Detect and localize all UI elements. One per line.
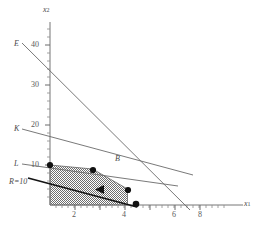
y-tick-label-20: 20	[31, 121, 39, 129]
vertex-point	[125, 187, 131, 193]
vertex-point	[47, 162, 53, 168]
line-label-R: R=10	[9, 178, 27, 186]
x-tick-label-6: 6	[172, 211, 176, 219]
x-tick-label-2: 2	[72, 211, 76, 219]
plot-figure: x2 x1 40 30 20 10 2 4 6 8 E K L R=10 B	[0, 0, 266, 227]
vertex-label-B: B	[115, 155, 120, 163]
line-label-E: E	[14, 40, 19, 48]
y-tick-label-40: 40	[31, 41, 39, 49]
line-label-K: K	[14, 125, 19, 133]
y-tick-label-10: 10	[31, 161, 39, 169]
vertex-point-B	[90, 167, 96, 173]
y-tick-label-30: 30	[31, 81, 39, 89]
feasible-region	[50, 165, 128, 205]
x-axis-label: x1	[244, 200, 251, 208]
x-axis-label-sub: 1	[248, 201, 251, 207]
line-label-L: L	[14, 160, 18, 168]
constraint-line-K	[22, 129, 193, 175]
x-tick-label-4: 4	[122, 211, 126, 219]
plot-canvas	[0, 0, 266, 227]
vertex-point	[133, 201, 140, 208]
y-axis-label-sub: 2	[47, 7, 50, 13]
x-tick-label-8: 8	[198, 211, 202, 219]
y-axis-label: x2	[43, 6, 50, 14]
y-major-ticks	[45, 45, 50, 165]
